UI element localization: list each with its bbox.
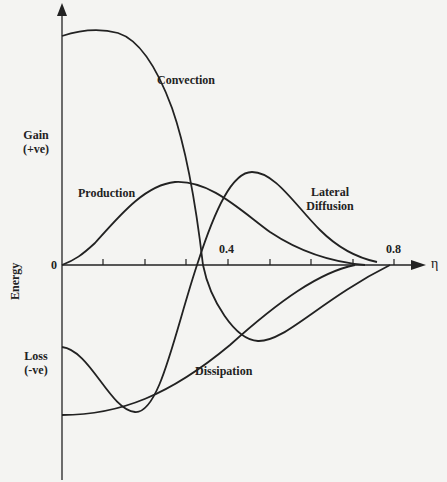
energy-axis-label: Energy (8, 263, 23, 300)
lateral-diffusion-label: Lateral Diffusion (305, 185, 355, 213)
energy-budget-diagram (0, 0, 447, 482)
lateral-diffusion-label-line2: Diffusion (305, 199, 355, 213)
y-axis-arrow-icon (57, 3, 67, 16)
zero-label: 0 (51, 258, 57, 273)
eta-axis-label: η (431, 256, 438, 272)
convection-label: Convection (157, 73, 215, 87)
production-label: Production (78, 186, 135, 200)
loss-label-line1: Loss (18, 349, 54, 363)
dissipation-label: Dissipation (195, 364, 252, 378)
dissipation-curve (62, 265, 355, 415)
x-axis-arrow-icon (411, 260, 426, 270)
loss-label: Loss (-ve) (18, 349, 54, 377)
gain-label-line1: Gain (18, 128, 54, 142)
loss-label-line2: (-ve) (18, 363, 54, 377)
lateral-diffusion-label-line1: Lateral (305, 185, 355, 199)
tick-label-0-8: 0.8 (386, 242, 401, 257)
gain-label-line2: (+ve) (18, 142, 54, 156)
tick-label-0-4: 0.4 (219, 242, 234, 257)
gain-label: Gain (+ve) (18, 128, 54, 156)
